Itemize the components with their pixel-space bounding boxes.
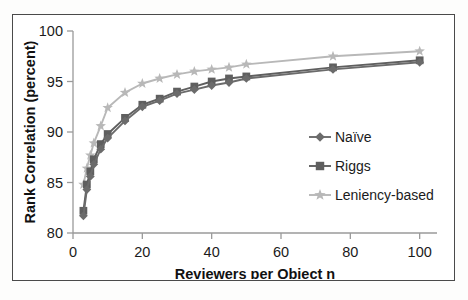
x-tick-label: 80	[342, 244, 358, 260]
marker-star	[224, 62, 234, 72]
legend-item: Riggs	[309, 158, 371, 174]
legend-item-label: Leniency-based	[335, 187, 434, 203]
y-axis-labels: 80859095100	[39, 23, 63, 241]
legend-item: Leniency-based	[309, 187, 434, 203]
y-tick-label: 80	[47, 225, 63, 241]
y-tick-label: 90	[47, 124, 63, 140]
marker-star	[328, 51, 338, 61]
x-tick-label: 20	[134, 244, 150, 260]
x-axis-tick-group	[73, 233, 420, 239]
y-axis-tick-group	[67, 31, 73, 233]
marker-star	[206, 64, 216, 74]
x-tick-label: 100	[408, 244, 432, 260]
marker-star	[241, 59, 251, 69]
x-axis-labels: 020406080100	[69, 244, 432, 260]
y-tick-label: 95	[47, 74, 63, 90]
y-tick-label: 85	[47, 175, 63, 191]
marker-star	[172, 69, 182, 79]
y-axis-title: Rank Correlation (percent)	[22, 40, 38, 223]
x-tick-label: 0	[69, 244, 77, 260]
marker-star	[414, 46, 424, 56]
marker-star	[314, 189, 325, 200]
marker-star	[96, 120, 106, 130]
x-tick-label: 60	[273, 244, 289, 260]
marker-star	[189, 66, 199, 76]
legend-item-label: Naïve	[335, 129, 372, 145]
y-tick-label: 100	[39, 23, 63, 39]
marker-diamond	[315, 132, 325, 142]
figure-container: 80859095100 020406080100 Reviewers per O…	[0, 0, 468, 300]
chart-frame: 80859095100 020406080100 Reviewers per O…	[12, 14, 455, 281]
legend-item-label: Riggs	[335, 158, 371, 174]
chart-legend: NaïveRiggsLeniency-based	[309, 129, 434, 203]
x-axis-title: Reviewers per Object n	[175, 266, 335, 279]
marker-star	[154, 73, 164, 83]
x-tick-label: 40	[204, 244, 220, 260]
marker-square	[316, 162, 324, 170]
legend-item: Naïve	[309, 129, 372, 145]
rank-correlation-line-chart: 80859095100 020406080100 Reviewers per O…	[13, 15, 453, 279]
